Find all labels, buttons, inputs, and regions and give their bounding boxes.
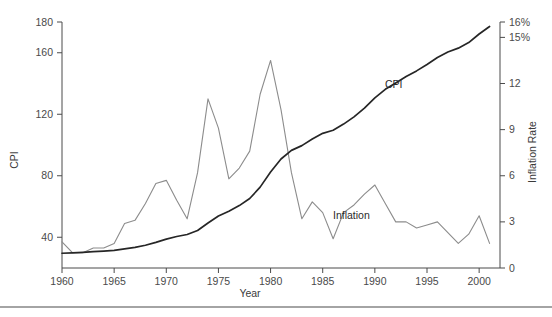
cpi-series-annotation: CPI bbox=[385, 78, 403, 90]
x-axis-tick-labels: 196019651970197519801985199019952000 bbox=[50, 275, 491, 287]
right-tick-label: 9 bbox=[509, 123, 515, 135]
x-tick-label: 1985 bbox=[311, 275, 335, 287]
right-tick-label: 15% bbox=[509, 31, 530, 43]
right-tick-label: 3 bbox=[509, 215, 515, 227]
chart-figure: 4080120160180 03691215%16% 1960196519701… bbox=[0, 0, 552, 317]
x-axis-ticks bbox=[62, 268, 479, 273]
y2-axis-title: Inflation Rate bbox=[526, 121, 538, 183]
left-tick-label: 80 bbox=[41, 169, 53, 181]
x-tick-label: 2000 bbox=[467, 275, 491, 287]
right-tick-label: 12 bbox=[509, 77, 521, 89]
left-tick-label: 180 bbox=[35, 16, 53, 28]
left-tick-label: 160 bbox=[35, 46, 53, 58]
left-tick-label: 120 bbox=[35, 108, 53, 120]
x-tick-label: 1965 bbox=[102, 275, 126, 287]
x-tick-label: 1995 bbox=[415, 275, 439, 287]
cpi-inflation-chart: 4080120160180 03691215%16% 1960196519701… bbox=[0, 0, 552, 317]
inflation-series-line bbox=[62, 60, 490, 252]
right-axis-ticks bbox=[500, 22, 505, 268]
x-tick-label: 1975 bbox=[207, 275, 231, 287]
x-tick-label: 1990 bbox=[363, 275, 387, 287]
inflation-series-annotation: Inflation bbox=[333, 209, 370, 221]
left-tick-label: 40 bbox=[41, 231, 53, 243]
right-tick-label: 16% bbox=[509, 16, 530, 28]
x-tick-label: 1980 bbox=[259, 275, 283, 287]
x-tick-label: 1970 bbox=[155, 275, 179, 287]
x-axis-title: Year bbox=[239, 287, 261, 299]
y-axis-title: CPI bbox=[8, 151, 20, 169]
left-axis-tick-labels: 4080120160180 bbox=[35, 16, 53, 243]
right-tick-label: 6 bbox=[509, 169, 515, 181]
left-axis-ticks bbox=[57, 22, 62, 237]
x-tick-label: 1960 bbox=[50, 275, 74, 287]
cpi-series-line bbox=[62, 26, 490, 253]
right-tick-label: 0 bbox=[509, 262, 515, 274]
